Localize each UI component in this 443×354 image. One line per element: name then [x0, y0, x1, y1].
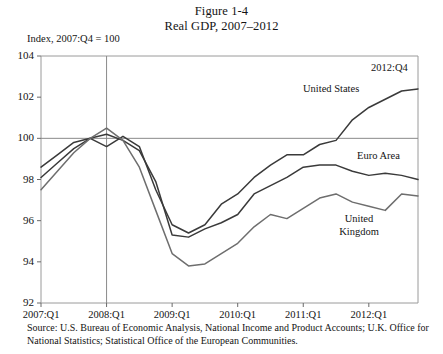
y-tick-92: 92 [0, 297, 34, 308]
y-tick-96: 96 [0, 215, 34, 226]
x-tick-2007-q1: 2007:Q1 [17, 309, 65, 320]
y-tick-104: 104 [0, 50, 34, 61]
series-label-euro-area: Euro Area [357, 150, 400, 162]
chart-plot-area [0, 0, 443, 354]
series-lines [41, 89, 418, 266]
endpoint-label-2012q4: 2012:Q4 [371, 62, 408, 73]
reference-lines [41, 56, 418, 303]
x-tick-2009-q1: 2009:Q1 [148, 309, 196, 320]
series-label-united-states: United States [303, 83, 359, 95]
x-tick-2012-q1: 2012:Q1 [345, 309, 393, 320]
y-tick-102: 102 [0, 91, 34, 102]
figure-container: Figure 1-4 Real GDP, 2007–2012 Index, 20… [0, 0, 443, 354]
series-line-united-kingdom [41, 128, 418, 266]
x-tick-2010-q1: 2010:Q1 [214, 309, 262, 320]
series-label-united-kingdom-line2: Kingdom [326, 226, 392, 238]
y-tick-100: 100 [0, 132, 34, 143]
series-label-united-kingdom-line1: United [326, 213, 392, 225]
y-tick-98: 98 [0, 174, 34, 185]
x-tick-2011-q1: 2011:Q1 [279, 309, 327, 320]
plot-frame [41, 56, 418, 303]
x-tick-2008-q1: 2008:Q1 [83, 309, 131, 320]
source-note: Source: U.S. Bureau of Economic Analysis… [27, 322, 435, 347]
y-tick-94: 94 [0, 256, 34, 267]
